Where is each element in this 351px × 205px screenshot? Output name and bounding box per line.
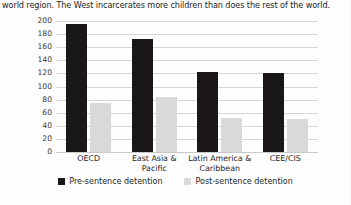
bar xyxy=(66,24,87,152)
y-tick-label: 180 xyxy=(16,30,52,38)
bar-groups xyxy=(56,21,318,152)
bar xyxy=(197,72,218,152)
y-tick-label: 120 xyxy=(16,69,52,77)
bar xyxy=(263,73,284,152)
bar-group xyxy=(187,21,253,152)
gridline xyxy=(56,152,318,153)
y-tick-label: 160 xyxy=(16,43,52,51)
y-tick-label: 140 xyxy=(16,56,52,64)
bar-group xyxy=(56,21,122,152)
y-tick-label: 40 xyxy=(16,122,52,130)
legend-swatch-icon xyxy=(184,178,191,185)
y-tick-label: 0 xyxy=(16,148,52,156)
x-category-label: OECD xyxy=(56,154,122,173)
y-tick-label: 200 xyxy=(16,17,52,25)
x-axis-category-labels: OECDEast Asia & PacificLatin America & C… xyxy=(56,154,318,173)
bar-group xyxy=(122,21,188,152)
legend-label: Pre-sentence detention xyxy=(69,177,162,186)
legend-item: Pre-sentence detention xyxy=(58,177,162,186)
bar xyxy=(156,97,177,152)
legend-item: Post-sentence detention xyxy=(184,177,292,186)
y-tick-label: 20 xyxy=(16,135,52,143)
y-axis-tick-labels: 200180160140120100806040200 xyxy=(16,21,52,152)
bar xyxy=(132,39,153,152)
x-category-label: East Asia & Pacific xyxy=(122,154,188,173)
bar-group xyxy=(253,21,319,152)
y-tick-label: 80 xyxy=(16,96,52,104)
bar xyxy=(221,118,242,152)
bar xyxy=(90,103,111,152)
legend-label: Post-sentence detention xyxy=(195,177,292,186)
x-category-label: Latin America & Caribbean xyxy=(187,154,253,173)
bar xyxy=(287,119,308,152)
chart-legend: Pre-sentence detentionPost-sentence dete… xyxy=(0,177,351,186)
y-tick-label: 60 xyxy=(16,109,52,117)
figure-caption: world region. The West incarcerates more… xyxy=(2,0,339,11)
chart-page: world region. The West incarcerates more… xyxy=(0,0,351,205)
legend-swatch-icon xyxy=(58,178,65,185)
x-category-label: CEE/CIS xyxy=(253,154,319,173)
y-tick-label: 100 xyxy=(16,83,52,91)
